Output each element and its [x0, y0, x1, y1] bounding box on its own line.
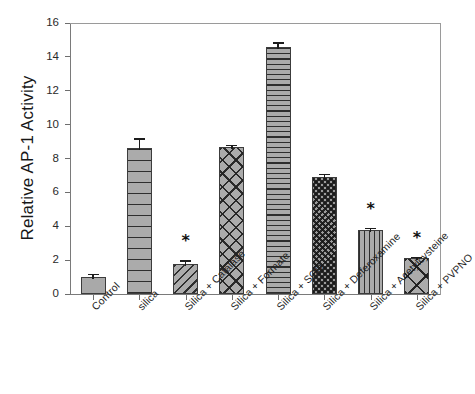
y-axis-line	[70, 23, 71, 295]
significance-asterisk: *	[366, 201, 374, 217]
y-tick-label: 6	[37, 186, 59, 198]
error-bar-cap	[226, 145, 237, 146]
y-tick-mark	[65, 90, 70, 91]
y-tick-mark	[65, 124, 70, 125]
significance-asterisk: *	[413, 230, 421, 246]
y-tick-mark	[65, 158, 70, 159]
y-tick-label: 12	[37, 85, 59, 97]
bar	[127, 148, 152, 294]
y-tick-mark	[65, 226, 70, 227]
y-tick-label: 2	[37, 254, 59, 266]
error-bar-stem	[139, 138, 140, 150]
y-tick-mark	[65, 294, 70, 295]
error-bar	[312, 174, 337, 181]
y-tick-mark	[65, 23, 70, 24]
plot-top-border	[70, 23, 441, 24]
error-bar-cap	[365, 228, 376, 229]
error-bar	[266, 42, 291, 50]
error-bar	[173, 260, 198, 267]
error-bar	[358, 228, 383, 231]
y-tick-label: 16	[37, 17, 59, 29]
error-bar	[219, 145, 244, 150]
y-tick-label: 4	[37, 220, 59, 232]
y-tick-label: 10	[37, 119, 59, 131]
significance-asterisk: *	[181, 233, 189, 249]
error-bar-cap	[88, 274, 99, 275]
plot-right-border	[440, 23, 441, 295]
y-axis-title: Relative AP-1 Activity	[18, 38, 38, 278]
y-tick-mark	[65, 56, 70, 57]
y-tick-label: 14	[37, 51, 59, 63]
error-bar-cap	[273, 42, 284, 43]
y-tick-mark	[65, 192, 70, 193]
error-bar-cap	[134, 138, 145, 139]
y-tick-label: 0	[37, 288, 59, 300]
error-bar	[81, 274, 106, 281]
error-bar-cap	[319, 174, 330, 175]
y-tick-label: 8	[37, 153, 59, 165]
error-bar	[127, 138, 152, 158]
y-tick-mark	[65, 260, 70, 261]
error-bar-cap	[180, 260, 191, 261]
bar	[173, 264, 198, 294]
